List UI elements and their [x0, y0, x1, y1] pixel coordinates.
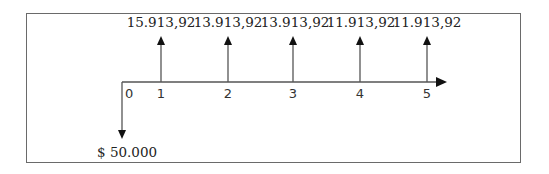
arrow-down-icon: [118, 130, 126, 139]
inflow-label: 11.913,92: [327, 14, 396, 30]
cash-flow-diagram: $ 50.000 15.913,92 13.913,92 13.913,92 1…: [0, 0, 549, 174]
inflow-4: 11.913,92: [327, 14, 396, 82]
arrow-up-icon: [224, 36, 232, 45]
inflow-label: 11.913,92: [393, 14, 462, 30]
period-label: 2: [224, 86, 232, 101]
period-label: 3: [289, 86, 297, 101]
period-label: 5: [423, 86, 431, 101]
period-label: 4: [356, 86, 364, 101]
inflow-1: 15.913,92: [127, 14, 196, 82]
inflow-5: 11.913,92: [393, 14, 462, 82]
inflow-2: 13.913,92: [194, 14, 263, 82]
period-label: 1: [157, 86, 165, 101]
inflow-label: 13.913,92: [194, 14, 263, 30]
outflow-label: $ 50.000: [97, 144, 157, 160]
period-label: 0: [125, 86, 133, 101]
arrow-up-icon: [423, 36, 431, 45]
axis-arrow-icon: [436, 77, 447, 87]
inflow-3: 13.913,92: [261, 14, 330, 82]
inflow-label: 15.913,92: [127, 14, 196, 30]
arrow-up-icon: [356, 36, 364, 45]
arrow-up-icon: [289, 36, 297, 45]
arrow-up-icon: [157, 36, 165, 45]
inflow-label: 13.913,92: [261, 14, 330, 30]
